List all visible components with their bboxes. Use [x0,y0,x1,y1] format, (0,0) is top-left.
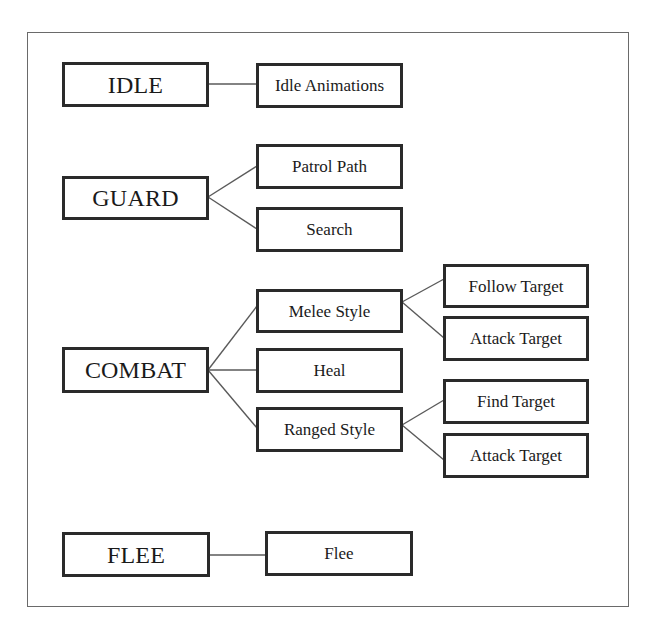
action-label: Idle Animations [275,77,384,94]
action-node-idle-animations: Idle Animations [256,63,403,108]
action-label: Attack Target [470,447,562,464]
action-label: Find Target [477,393,555,410]
edge-combat-ranged-style [208,370,257,428]
edge-ranged-find-target [402,400,444,425]
state-node-combat: COMBAT [62,347,209,393]
action-node-melee-attack-target: Attack Target [443,316,589,361]
action-node-heal: Heal [256,348,403,393]
action-node-flee: Flee [265,531,413,576]
edge-combat-melee-style [208,306,257,370]
state-label: GUARD [92,186,178,210]
action-label: Flee [324,545,353,562]
action-node-ranged-style: Ranged Style [256,407,403,452]
state-label: COMBAT [85,358,186,382]
action-label: Attack Target [470,330,562,347]
action-label: Melee Style [289,303,371,320]
action-label: Search [306,221,352,238]
action-label: Patrol Path [292,158,367,175]
action-node-patrol-path: Patrol Path [256,144,403,189]
action-node-melee-style: Melee Style [256,289,403,333]
action-node-find-target: Find Target [443,379,589,424]
action-node-ranged-attack-target: Attack Target [443,433,589,478]
edge-guard-search [208,197,257,229]
state-label: FLEE [107,543,165,567]
edge-melee-attack-target [402,302,444,338]
action-label: Ranged Style [284,421,375,438]
action-node-search: Search [256,207,403,252]
edge-guard-patrol-path [208,166,257,197]
state-label: IDLE [108,73,163,97]
action-node-follow-target: Follow Target [443,264,589,308]
edge-melee-follow-target [402,279,444,302]
action-label: Follow Target [469,278,564,295]
edge-ranged-attack-target [402,425,444,460]
action-label: Heal [313,362,345,379]
state-node-flee: FLEE [62,532,210,577]
state-node-guard: GUARD [62,176,209,220]
state-node-idle: IDLE [62,62,209,107]
